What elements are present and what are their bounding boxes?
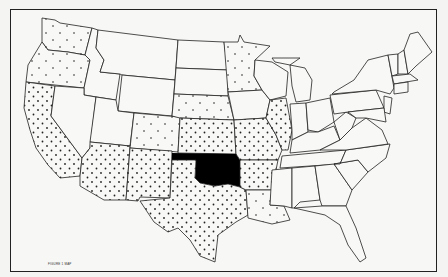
state-south-dakota: [174, 68, 228, 96]
state-wyoming: [118, 75, 175, 116]
state-florida: [294, 206, 366, 262]
state-new-jersey: [384, 96, 392, 114]
state-new-mexico: [126, 148, 172, 201]
state-nebraska: [172, 94, 234, 120]
state-arizona: [80, 142, 130, 200]
state-north-dakota: [176, 40, 228, 70]
state-connecticut: [394, 82, 408, 94]
state-mississippi: [270, 168, 292, 208]
state-kansas: [178, 118, 236, 154]
state-colorado: [130, 113, 180, 152]
map-caption: FIGURE 1 MAP: [48, 262, 72, 266]
state-new-york: [332, 55, 394, 94]
state-iowa: [228, 90, 270, 120]
state-ohio: [306, 98, 334, 132]
state-maine: [404, 32, 432, 74]
us-map: [0, 0, 448, 277]
state-montana: [96, 30, 178, 80]
state-washington: [42, 18, 92, 55]
